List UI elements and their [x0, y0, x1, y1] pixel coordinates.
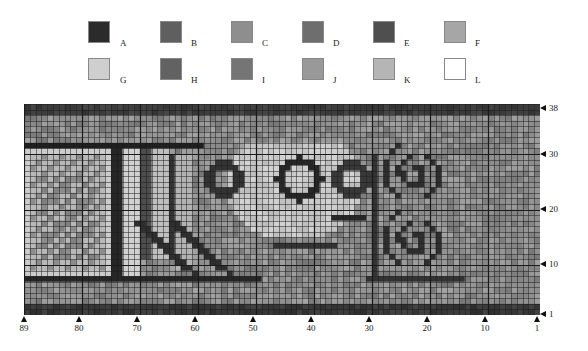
swatch-label-f: F [475, 38, 480, 48]
tick-arrow-icon [540, 105, 546, 111]
x-tick: 30 [359, 316, 379, 333]
tick-arrow-icon [192, 316, 198, 322]
x-tick: 50 [243, 316, 263, 333]
swatch-k [373, 58, 395, 80]
swatch-label-g: G [120, 75, 127, 85]
swatch-label-e: E [404, 38, 410, 48]
stitch-chart-grid [24, 104, 540, 315]
swatch-label-l: L [475, 75, 481, 85]
x-tick: 80 [69, 316, 89, 333]
tick-arrow-icon [134, 316, 140, 322]
color-key-legend: ABCDEFGHIJKL [0, 0, 588, 90]
swatch-label-d: D [333, 38, 340, 48]
swatch-b [160, 21, 182, 43]
swatch-label-a: A [120, 38, 127, 48]
tick-arrow-icon [540, 206, 546, 212]
swatch-f [444, 21, 466, 43]
tick-arrow-icon [76, 316, 82, 322]
swatch-label-b: B [191, 38, 197, 48]
swatch-label-c: C [262, 38, 268, 48]
y-tick: 10 [540, 258, 558, 268]
tick-arrow-icon [540, 261, 546, 267]
swatch-label-h: H [191, 75, 198, 85]
tick-arrow-icon [540, 311, 546, 317]
swatch-label-k: K [404, 75, 411, 85]
x-tick: 40 [301, 316, 321, 333]
x-tick: 1 [527, 316, 547, 333]
swatch-e [373, 21, 395, 43]
x-tick: 89 [14, 316, 34, 333]
tick-arrow-icon [308, 316, 314, 322]
swatch-label-i: I [262, 75, 265, 85]
swatch-h [160, 58, 182, 80]
x-tick: 20 [417, 316, 437, 333]
y-tick: 20 [540, 203, 558, 213]
swatch-l [444, 58, 466, 80]
x-tick: 10 [475, 316, 495, 333]
tick-arrow-icon [424, 316, 430, 322]
tick-arrow-icon [482, 316, 488, 322]
x-tick: 60 [185, 316, 205, 333]
tick-arrow-icon [366, 316, 372, 322]
swatch-i [231, 58, 253, 80]
y-tick: 38 [540, 102, 558, 112]
tick-arrow-icon [540, 151, 546, 157]
tick-arrow-icon [21, 316, 27, 322]
swatch-d [302, 21, 324, 43]
y-tick: 30 [540, 148, 558, 158]
swatch-j [302, 58, 324, 80]
swatch-label-j: J [333, 75, 337, 85]
swatch-a [88, 21, 110, 43]
tick-arrow-icon [250, 316, 256, 322]
swatch-g [88, 58, 110, 80]
swatch-c [231, 21, 253, 43]
y-tick: 1 [540, 308, 554, 318]
x-tick: 70 [127, 316, 147, 333]
pattern-canvas [24, 104, 540, 315]
